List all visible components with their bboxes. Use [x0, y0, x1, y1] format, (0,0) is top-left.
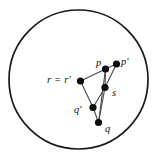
node-label-pp: p′ [121, 57, 129, 68]
figure-svg [0, 0, 157, 159]
node-label-q: q [105, 124, 110, 135]
graph-node-q [95, 119, 102, 126]
node-label-qp: q′ [74, 105, 82, 116]
graph-node-s [101, 84, 108, 91]
graph-node-qp [89, 104, 96, 111]
graph-node-p [102, 65, 109, 72]
figure-canvas: r = r′pp′sq′q [0, 0, 157, 159]
graph-node-pp [113, 60, 120, 67]
graph-node-r [77, 77, 84, 84]
node-label-r: r = r′ [47, 75, 71, 86]
node-label-p: p [96, 58, 101, 69]
node-label-s: s [112, 88, 116, 99]
